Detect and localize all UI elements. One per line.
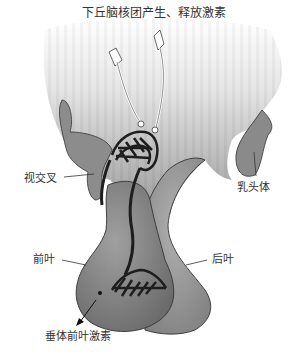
optic-chiasm-label: 视交叉: [24, 173, 57, 184]
posterior-lobe-label: 后叶: [212, 254, 234, 265]
anterior-hormones-label: 垂体前叶激素: [45, 331, 111, 342]
mammillary-body-label: 乳头体: [237, 182, 270, 193]
hypothalamus-hormones-label: 下丘脑核团产生、释放激素: [82, 7, 226, 19]
anterior-lobe-label: 前叶: [33, 254, 55, 265]
